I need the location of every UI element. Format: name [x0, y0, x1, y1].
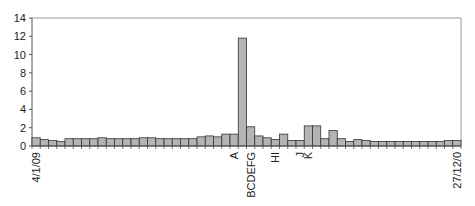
bar [115, 139, 123, 146]
bar [73, 139, 81, 146]
bar [329, 130, 337, 146]
bar [313, 126, 321, 146]
x-tick-label: K [302, 151, 314, 159]
x-tick-label: HI [269, 152, 281, 163]
bar [189, 139, 197, 146]
bar [387, 141, 395, 146]
y-tick-label: 8 [20, 67, 26, 79]
bar [395, 141, 403, 146]
bar [214, 137, 222, 146]
bar [106, 139, 114, 146]
bar [205, 136, 213, 146]
bar [403, 141, 411, 146]
bar [131, 139, 139, 146]
bar [321, 139, 329, 146]
bar [65, 139, 73, 146]
bar [255, 136, 263, 146]
bar [49, 141, 57, 146]
bar [436, 141, 444, 146]
x-axis-labels: 4/1/09ABCDEFGHIJK27/12/0 [30, 151, 463, 198]
y-tick-label: 2 [20, 122, 26, 134]
y-axis: 02468101214 [14, 12, 32, 152]
bar [379, 141, 387, 146]
bar [164, 139, 172, 146]
x-tick-label: A [228, 151, 240, 159]
bar [197, 137, 205, 146]
bar [354, 140, 362, 146]
y-tick-label: 14 [14, 12, 26, 24]
bars [32, 38, 461, 146]
y-tick-label: 10 [14, 49, 26, 61]
bar [288, 141, 296, 146]
bar [57, 141, 65, 146]
bar [98, 138, 106, 146]
bar [420, 141, 428, 146]
bar [445, 141, 453, 146]
y-tick-label: 4 [20, 103, 26, 115]
bar [271, 140, 279, 146]
bar [362, 141, 370, 146]
bar [304, 126, 312, 146]
y-tick-label: 0 [20, 140, 26, 152]
x-tick-label: BCDEFG [245, 152, 257, 198]
bar [222, 134, 230, 146]
bar [40, 140, 48, 146]
bar [238, 38, 246, 146]
y-tick-label: 6 [20, 85, 26, 97]
bar [370, 141, 378, 146]
bar [296, 141, 304, 146]
x-tick-label: 4/1/09 [30, 152, 42, 183]
bar [123, 139, 131, 146]
bar [230, 134, 238, 146]
bar [156, 139, 164, 146]
bar [263, 138, 271, 146]
bar [32, 138, 40, 146]
bar [346, 141, 354, 146]
y-tick-label: 12 [14, 30, 26, 42]
bar [148, 138, 156, 146]
bar [82, 139, 90, 146]
bar [247, 127, 255, 146]
bar-chart: 02468101214 4/1/09ABCDEFGHIJK27/12/0 [0, 0, 475, 206]
bar [453, 141, 461, 146]
x-tick-label: 27/12/0 [451, 152, 463, 189]
bar [337, 139, 345, 146]
bar [280, 134, 288, 146]
bar [172, 139, 180, 146]
bar [90, 139, 98, 146]
bar [181, 139, 189, 146]
x-axis [32, 146, 461, 149]
bar [412, 141, 420, 146]
bar [428, 141, 436, 146]
bar [139, 138, 147, 146]
